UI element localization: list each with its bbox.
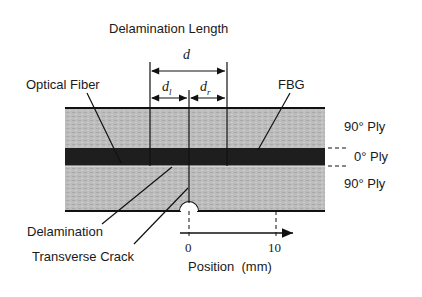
diagram-title: Delamination Length xyxy=(109,21,228,36)
optical-fiber-label: Optical Fiber xyxy=(26,77,100,92)
dimension-dr-label: d xyxy=(200,79,207,94)
transverse-crack-label: Transverse Crack xyxy=(32,249,134,264)
fbg-label: FBG xyxy=(278,77,305,92)
dimension-dl: dl xyxy=(162,79,172,97)
dimension-dl-label: d xyxy=(162,79,169,94)
dimension-dr: dr xyxy=(200,79,211,97)
ply-0-band xyxy=(65,148,325,166)
axis-tick-10: 10 xyxy=(268,240,281,256)
dimension-d: d xyxy=(183,47,190,63)
ply-90-bottom-label: 90° Ply xyxy=(344,176,385,191)
ply-90-top-label: 90° Ply xyxy=(344,119,385,134)
dimension-dr-sub: r xyxy=(207,87,211,97)
dimension-dl-sub: l xyxy=(169,87,172,97)
axis-label: Position (mm) xyxy=(188,259,272,274)
dimension-d-label: d xyxy=(183,47,190,62)
delamination-label: Delamination xyxy=(27,224,103,239)
ply-0-label: 0° Ply xyxy=(354,149,388,164)
axis-tick-0: 0 xyxy=(185,240,192,256)
